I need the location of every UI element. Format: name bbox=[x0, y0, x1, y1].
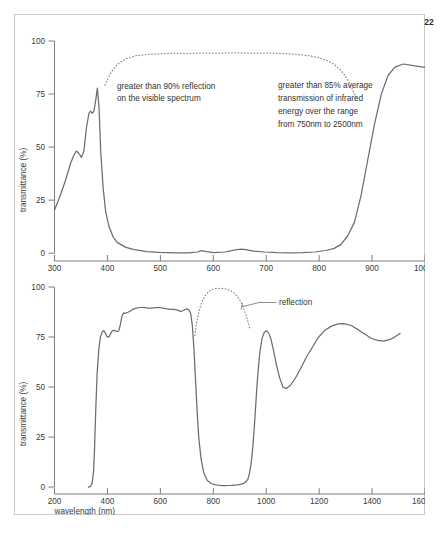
chart-1-ytick-2: 50 bbox=[36, 143, 46, 152]
chart-1-xtick-1: 400 bbox=[101, 264, 115, 272]
chart-1-transmission-annotation: greater than 85% average transmission of… bbox=[278, 81, 373, 129]
chart-2-xtick-3: 800 bbox=[206, 497, 220, 506]
chart-1-x-axis: 300 400 500 600 700 800 900 1000 bbox=[48, 255, 425, 272]
chart-2-x-axis: 200 400 600 800 1000 1200 1400 1600 bbox=[48, 488, 425, 506]
page-number: 22 bbox=[424, 17, 434, 27]
chart-1-annotation-transmission-line-1: transmission of infrared bbox=[278, 94, 364, 103]
chart-2-transmittance-curve bbox=[88, 307, 400, 487]
chart-2-xtick-5: 1200 bbox=[310, 497, 329, 506]
page-canvas: 22 300 400 500 600 700 bbox=[0, 0, 441, 543]
chart-2-xtick-4: 1000 bbox=[257, 497, 276, 506]
chart-1-xtick-6: 900 bbox=[365, 264, 379, 272]
chart-1-ylabel: transmittance (%) bbox=[19, 148, 28, 212]
chart-1-xtick-3: 600 bbox=[206, 264, 220, 272]
chart-2-ytick-3: 75 bbox=[36, 333, 46, 342]
chart-1-xtick-4: 700 bbox=[259, 264, 273, 272]
chart-1-ytick-0: 0 bbox=[40, 249, 45, 258]
chart-2-xlabel: wavelength (nm) bbox=[54, 507, 116, 515]
chart-bottom-transmittance-200-1600: 200 400 600 800 1000 1200 1400 1600 100 … bbox=[14, 283, 425, 515]
chart-2-svg: 200 400 600 800 1000 1200 1400 1600 100 … bbox=[14, 283, 425, 515]
chart-2-xtick-0: 200 bbox=[48, 497, 62, 506]
chart-2-ylabel: transmittance (%) bbox=[19, 382, 28, 446]
chart-1-xtick-5: 800 bbox=[312, 264, 326, 272]
chart-2-xtick-7: 1600 bbox=[412, 497, 425, 506]
chart-top-transmittance-300-1000: 300 400 500 600 700 800 900 1000 100 75 … bbox=[14, 22, 425, 272]
chart-1-transmittance-curve bbox=[55, 64, 426, 253]
chart-2-annotation-reflection: reflection bbox=[279, 298, 313, 307]
chart-2-reflection-curve bbox=[195, 288, 250, 335]
chart-1-annotation-transmission-line-3: from 750nm to 2500nm bbox=[278, 120, 363, 129]
chart-2-xtick-6: 1400 bbox=[363, 497, 382, 506]
chart-2-xtick-1: 400 bbox=[101, 497, 115, 506]
chart-2-xtick-2: 600 bbox=[154, 497, 168, 506]
chart-1-ytick-3: 75 bbox=[36, 90, 46, 99]
chart-1-ytick-4: 100 bbox=[31, 37, 45, 46]
chart-2-ytick-0: 0 bbox=[40, 483, 45, 492]
chart-1-ytick-1: 25 bbox=[36, 196, 46, 205]
chart-1-annotation-transmission-line-2: energy over the range bbox=[278, 107, 359, 116]
chart-2-plot-area bbox=[88, 288, 400, 487]
chart-1-xtick-7: 1000 bbox=[414, 264, 425, 272]
chart-2-ytick-4: 100 bbox=[31, 283, 45, 292]
chart-1-reflection-annotation: greater than 90% reflection on the visib… bbox=[117, 82, 216, 103]
chart-1-annotation-reflection-line-1: on the visible spectrum bbox=[117, 94, 201, 103]
chart-2-y-axis: 100 75 50 25 0 bbox=[31, 283, 54, 492]
chart-1-xtick-0: 300 bbox=[48, 264, 62, 272]
chart-1-annotation-reflection-line-0: greater than 90% reflection bbox=[117, 82, 216, 91]
chart-1-y-axis: 100 75 50 25 0 bbox=[31, 37, 54, 258]
chart-1-annotation-transmission-line-0: greater than 85% average bbox=[278, 81, 373, 90]
chart-2-ytick-1: 25 bbox=[36, 433, 46, 442]
chart-1-xtick-2: 500 bbox=[154, 264, 168, 272]
chart-2-reflection-leader-line bbox=[242, 303, 276, 307]
chart-1-reflection-curve bbox=[105, 53, 357, 100]
chart-2-ytick-2: 50 bbox=[36, 383, 46, 392]
chart-1-svg: 300 400 500 600 700 800 900 1000 100 75 … bbox=[14, 22, 425, 272]
